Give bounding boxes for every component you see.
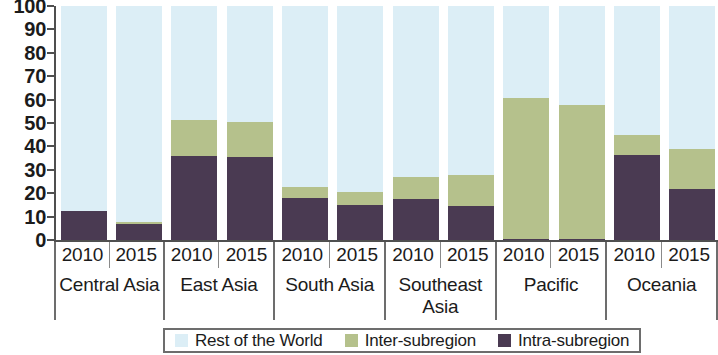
bar-segment-rest-of-world [171, 6, 217, 119]
bar-segment-rest-of-world [393, 6, 439, 177]
bar [503, 6, 549, 240]
y-axis-tick-mark [47, 145, 54, 147]
x-axis-year-row: 20102015 [607, 242, 716, 268]
bar-segment-rest-of-world [669, 6, 715, 149]
x-axis-group-label: Southeast Asia [386, 268, 495, 318]
y-axis-tick-label: 90 [0, 22, 46, 36]
bar-segment-rest-of-world [282, 6, 328, 187]
bar-segment-inter-subregion [282, 187, 328, 198]
x-axis-year-label: 2015 [218, 242, 273, 268]
bar [61, 6, 107, 240]
x-axis-year-label: 2010 [386, 242, 440, 268]
bar-segment-inter-subregion [503, 98, 549, 238]
bar [171, 6, 217, 240]
bar-segment-rest-of-world [337, 6, 383, 192]
bar-segment-intra-subregion [282, 198, 328, 240]
y-axis-tick-label: 60 [0, 93, 46, 107]
y-axis-tick-mark [47, 52, 54, 54]
bar-segment-intra-subregion [227, 157, 273, 240]
x-axis-year-label: 2010 [497, 242, 551, 268]
bar-segment-rest-of-world [503, 6, 549, 98]
chart-legend: Rest of the WorldInter-subregionIntra-su… [163, 328, 641, 353]
legend-item: Inter-subregion [345, 332, 476, 350]
y-axis-tick-label: 30 [0, 163, 46, 177]
x-axis-year-row: 20102015 [386, 242, 495, 268]
x-axis-year-label: 2010 [607, 242, 661, 268]
bar-segment-intra-subregion [614, 155, 660, 240]
x-axis-year-row: 20102015 [275, 242, 384, 268]
bar-segment-intra-subregion [61, 211, 107, 240]
y-axis-tick-mark [47, 99, 54, 101]
bar [337, 6, 383, 240]
y-axis: 0102030405060708090100 [0, 6, 46, 240]
x-axis-group-label: East Asia [165, 268, 274, 296]
bar [282, 6, 328, 240]
bar-segment-inter-subregion [559, 105, 605, 238]
bar-segment-intra-subregion [116, 224, 162, 240]
y-axis-tick-mark [47, 75, 54, 77]
x-axis-group-label: South Asia [275, 268, 384, 296]
x-axis-group: 20102015Southeast Asia [386, 242, 497, 320]
y-axis-tick-mark [47, 192, 54, 194]
y-axis-tick-mark [47, 169, 54, 171]
bar [448, 6, 494, 240]
x-axis-year-row: 20102015 [165, 242, 274, 268]
legend-swatch-icon [498, 334, 511, 347]
x-axis-group: 20102015South Asia [275, 242, 386, 320]
bar-segment-rest-of-world [227, 6, 273, 122]
x-axis-year-label: 2015 [109, 242, 163, 268]
bar [227, 6, 273, 240]
plot-area [54, 6, 718, 240]
bar-segment-inter-subregion [337, 192, 383, 205]
y-axis-tick-mark [47, 122, 54, 124]
y-axis-tick-label: 80 [0, 46, 46, 60]
bars-layer [56, 6, 718, 240]
bar-segment-inter-subregion [171, 120, 217, 156]
bar-segment-inter-subregion [614, 135, 660, 155]
y-axis-tick-label: 100 [0, 0, 46, 13]
y-axis-tick-label: 10 [0, 210, 46, 224]
x-axis-year-row: 20102015 [56, 242, 163, 268]
x-axis-group-label: Oceania [607, 268, 716, 296]
legend-swatch-icon [345, 334, 358, 347]
bar-segment-inter-subregion [448, 175, 494, 207]
stacked-bar-chart: 0102030405060708090100 20102015Central A… [0, 0, 718, 355]
legend-label: Intra-subregion [518, 332, 629, 350]
legend-label: Rest of the World [195, 332, 323, 350]
bar-segment-rest-of-world [559, 6, 605, 105]
y-axis-tick-label: 50 [0, 116, 46, 130]
x-axis-year-label: 2015 [550, 242, 605, 268]
y-axis-tick-label: 70 [0, 69, 46, 83]
x-axis-year-label: 2015 [329, 242, 384, 268]
bar-segment-rest-of-world [448, 6, 494, 174]
bar-segment-intra-subregion [171, 156, 217, 240]
x-axis-year-label: 2015 [440, 242, 495, 268]
bar-segment-inter-subregion [669, 149, 715, 189]
bar [614, 6, 660, 240]
x-axis-year-label: 2010 [165, 242, 219, 268]
bar-segment-rest-of-world [614, 6, 660, 135]
x-axis-year-row: 20102015 [497, 242, 606, 268]
bar-segment-intra-subregion [669, 189, 715, 240]
y-axis-tick-mark [47, 239, 54, 241]
legend-swatch-icon [175, 334, 188, 347]
y-axis-tick-mark [47, 28, 54, 30]
y-axis-tick-label: 40 [0, 139, 46, 153]
bar-segment-rest-of-world [116, 6, 162, 222]
y-axis-tick-mark [47, 5, 54, 7]
bar [669, 6, 715, 240]
x-axis-group: 20102015East Asia [165, 242, 276, 320]
x-axis-group: 20102015Pacific [497, 242, 608, 320]
x-axis-group-label: Central Asia [56, 268, 163, 296]
legend-item: Intra-subregion [498, 332, 629, 350]
x-axis-year-label: 2015 [661, 242, 716, 268]
x-axis-year-label: 2010 [56, 242, 109, 268]
bar-segment-intra-subregion [448, 206, 494, 240]
bar-segment-rest-of-world [61, 6, 107, 211]
x-axis-group: 20102015Central Asia [54, 242, 165, 320]
bar-segment-inter-subregion [393, 177, 439, 199]
legend-label: Inter-subregion [365, 332, 476, 350]
y-axis-tick-label: 20 [0, 186, 46, 200]
x-axis-labels: 20102015Central Asia20102015East Asia201… [54, 242, 718, 320]
x-axis-group-label: Pacific [497, 268, 606, 296]
